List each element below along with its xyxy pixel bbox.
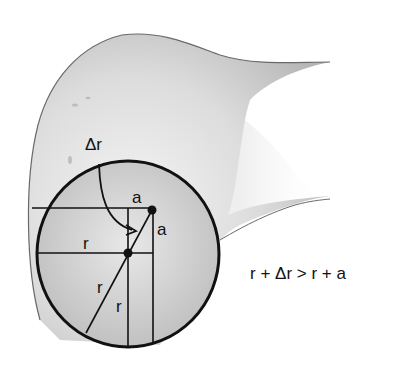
label-delta-r: Δr <box>85 135 102 154</box>
label-r-vertical: r <box>116 297 122 316</box>
point-center <box>124 249 133 258</box>
label-r-horizontal: r <box>83 234 89 253</box>
diagram-figure: Δr a a r r r r + Δr > r + a <box>0 0 394 370</box>
label-r-diagonal: r <box>97 278 103 297</box>
label-a-top: a <box>132 188 142 207</box>
label-a-side: a <box>157 220 167 239</box>
point-offset-center <box>148 206 157 215</box>
equation-text: r + Δr > r + a <box>250 264 346 283</box>
